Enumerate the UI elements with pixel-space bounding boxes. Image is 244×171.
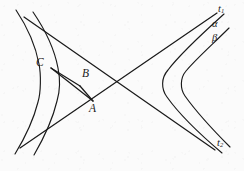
hyperbola-beta-left-branch bbox=[33, 12, 59, 155]
hyperbola-beta-right-branch bbox=[181, 28, 230, 147]
label-point-c: C bbox=[36, 57, 44, 69]
hyperbola-figure: t1 α β t2 C B A bbox=[0, 0, 244, 171]
chord-segment-cb bbox=[51, 68, 80, 86]
label-asymptote-t1-subscript: 1 bbox=[221, 7, 224, 14]
label-curve-beta: β bbox=[212, 33, 217, 44]
hyperbola-alpha-left-branch bbox=[15, 10, 40, 154]
label-asymptote-t2-subscript: 2 bbox=[220, 141, 223, 148]
label-curve-alpha: α bbox=[212, 19, 218, 30]
asymptote-line-t2 bbox=[24, 17, 215, 150]
figure-canvas bbox=[0, 0, 244, 171]
label-asymptote-t2: t2 bbox=[217, 138, 223, 149]
chord-segment-ba bbox=[80, 86, 93, 101]
label-point-a: A bbox=[89, 103, 96, 115]
asymptote-line-t1 bbox=[20, 13, 217, 148]
label-asymptote-t1: t1 bbox=[218, 4, 224, 15]
label-point-b: B bbox=[82, 68, 89, 80]
